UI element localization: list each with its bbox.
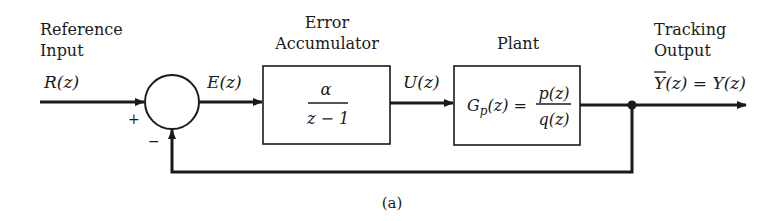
error-accumulator-block <box>263 66 390 144</box>
output-signal-rest: (z) = Y(z) <box>665 73 746 93</box>
control-signal-label: U(z) <box>403 72 440 92</box>
accumulator-numerator: α <box>321 80 332 99</box>
output-signal-label: Y(z) = Y(z) <box>654 73 746 93</box>
accumulator-denominator: z − 1 <box>306 109 349 128</box>
output-title-line1: Tracking <box>654 20 726 39</box>
plant-lhs-argument: (z) = <box>487 96 526 115</box>
plant-lhs: Gp(z) = <box>467 96 527 118</box>
plant-denominator: q(z) <box>538 110 569 129</box>
output-title-line2: Output <box>654 41 711 60</box>
plant-numerator: p(z) <box>538 84 569 103</box>
accumulator-title-line2: Accumulator <box>274 34 379 53</box>
plant-lhs-symbol: G <box>467 96 480 115</box>
reference-input-title-line1: Reference <box>40 20 123 39</box>
summing-junction <box>145 75 199 129</box>
accumulator-title-line1: Error <box>305 13 350 32</box>
plant-title: Plant <box>497 34 540 53</box>
error-signal-label: E(z) <box>206 72 242 92</box>
block-diagram: Reference Input R(z) + − E(z) Error Accu… <box>0 0 781 221</box>
input-signal-label: R(z) <box>43 72 79 92</box>
reference-input-title-line2: Input <box>40 41 84 60</box>
plus-sign: + <box>128 111 140 127</box>
figure-caption: (a) <box>382 194 403 212</box>
minus-sign: − <box>148 133 160 149</box>
